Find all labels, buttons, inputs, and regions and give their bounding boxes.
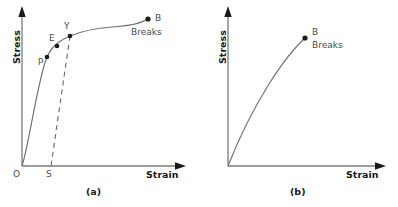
origin-label-a: O [13,170,20,179]
point-marker-b [145,16,150,21]
point-label-b: B [312,28,318,37]
stress-strain-curve-b [228,38,305,166]
y-axis-title-b: Stress [218,30,228,64]
breaks-annotation-a: Breaks [131,28,162,37]
point-marker-y [68,34,73,39]
chart-panel-b: Stress Strain B Breaks (b) [199,0,398,207]
breaks-annotation-b: Breaks [312,41,343,50]
point-label-y: Y [64,22,70,31]
y-axis-arrow-icon [224,6,231,17]
point-marker-b [302,35,307,40]
point-marker-e [55,44,60,49]
y-axis-arrow-icon [18,6,25,17]
y-axis-title-a: Stress [12,30,22,64]
point-label-p: P [38,58,43,67]
permanent-set-line [51,36,70,166]
point-label-e: E [49,34,55,43]
caption-a: (a) [86,187,101,197]
point-label-s: S [46,170,52,179]
stress-strain-curve-a [22,19,148,166]
caption-b: (b) [290,187,305,197]
chart-panel-a: Stress Strain O S P E Y B Breaks (a) [0,0,199,207]
point-label-b: B [155,14,161,23]
x-axis-title-b: Strain [346,170,379,180]
figure-root: Stress Strain O S P E Y B Breaks (a) [0,0,398,207]
point-marker-p [45,55,50,60]
x-axis-title-a: Strain [146,170,179,180]
